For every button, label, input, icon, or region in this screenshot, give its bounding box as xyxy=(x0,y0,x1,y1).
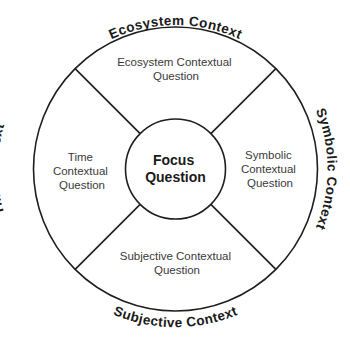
time-question-line-2: Contextual xyxy=(53,165,108,177)
time-question-line-3: Question xyxy=(59,179,105,191)
subjective-context-text: Subjective Context xyxy=(112,303,240,330)
symbolic-question-label: Symbolic Contextual Question xyxy=(241,149,299,189)
context-wheel-diagram: Focus Question Ecosystem Contextual Ques… xyxy=(0,0,350,346)
ecosystem-question-line-1: Ecosystem Contextual xyxy=(117,56,231,68)
time-context-label: Time Context xyxy=(0,121,7,216)
focus-question-label: Focus Question xyxy=(145,152,206,185)
divider-upper-left xyxy=(75,69,140,134)
time-question-line-1: Time xyxy=(68,151,93,163)
ecosystem-context-label: Ecosystem Context xyxy=(107,13,245,42)
subjective-question-label: Subjective Contextual Question xyxy=(120,250,234,276)
focus-line-2: Question xyxy=(145,169,206,185)
symbolic-question-line-3: Question xyxy=(247,177,293,189)
symbolic-question-line-1: Symbolic xyxy=(245,149,292,161)
divider-upper-right xyxy=(211,69,276,134)
time-context-text: Time Context xyxy=(0,121,7,216)
ecosystem-question-line-2: Question xyxy=(153,70,199,82)
subjective-question-line-1: Subjective Contextual xyxy=(120,250,231,262)
symbolic-question-line-2: Contextual xyxy=(241,163,296,175)
time-question-label: Time Contextual Question xyxy=(53,151,111,191)
ecosystem-context-text: Ecosystem Context xyxy=(107,13,245,42)
ecosystem-question-label: Ecosystem Contextual Question xyxy=(117,56,235,82)
focus-line-1: Focus xyxy=(153,152,194,168)
subjective-context-label: Subjective Context xyxy=(112,303,240,330)
subjective-question-line-2: Question xyxy=(154,264,200,276)
